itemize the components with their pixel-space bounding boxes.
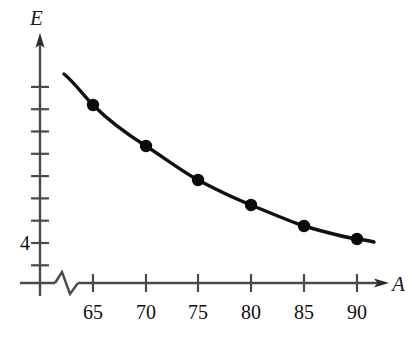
data-point-65 (87, 99, 99, 111)
x-axis-tick-label-75: 75 (176, 302, 220, 322)
x-axis-label: A (392, 274, 405, 295)
data-point-70 (140, 140, 152, 152)
x-axis-tick-label-80: 80 (229, 302, 273, 322)
data-point-75 (192, 174, 204, 186)
data-markers (87, 99, 363, 245)
figure-container: E A 4 65 70 75 80 85 90 (0, 0, 417, 338)
data-point-90 (351, 233, 363, 245)
axes-group (20, 33, 389, 296)
data-curve (64, 74, 374, 242)
chart-canvas (0, 0, 417, 338)
x-axis-tick-label-65: 65 (71, 302, 115, 322)
y-axis-label: E (30, 8, 43, 29)
x-axis-break-zigzag-icon (55, 272, 78, 294)
x-axis-tick-label-85: 85 (282, 302, 326, 322)
data-point-80 (245, 199, 257, 211)
x-axis-tick-label-70: 70 (124, 302, 168, 322)
x-axis-tick-label-90: 90 (335, 302, 379, 322)
y-axis-tick-label-4: 4 (6, 233, 30, 253)
data-point-85 (298, 220, 310, 232)
